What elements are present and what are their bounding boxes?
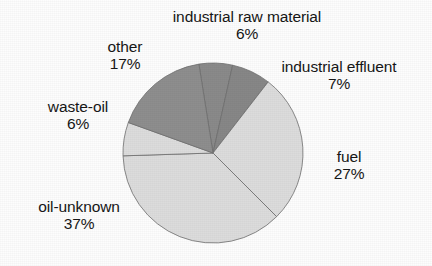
pie-label-value: 27%: [312, 165, 386, 182]
pie-label-value: 37%: [8, 215, 150, 232]
pie-label-name: industrial effluent: [250, 58, 428, 75]
pie-label-name: fuel: [312, 148, 386, 165]
pie-chart-figure: industrial raw material 6% industrial ef…: [0, 0, 432, 266]
pie-label-value: 7%: [250, 75, 428, 92]
pie-label-value: 6%: [26, 115, 130, 132]
pie-label-name: waste-oil: [26, 98, 130, 115]
pie-label-name: oil-unknown: [8, 198, 150, 215]
pie-label-name: industrial raw material: [137, 8, 357, 25]
pie-label-industrial-effluent: industrial effluent 7%: [250, 58, 428, 93]
pie-label-other: other 17%: [79, 38, 171, 73]
pie-label-value: 17%: [79, 55, 171, 72]
pie-label-oil-unknown: oil-unknown 37%: [8, 198, 150, 233]
pie-label-waste-oil: waste-oil 6%: [26, 98, 130, 133]
pie-label-name: other: [79, 38, 171, 55]
pie-label-fuel: fuel 27%: [312, 148, 386, 183]
